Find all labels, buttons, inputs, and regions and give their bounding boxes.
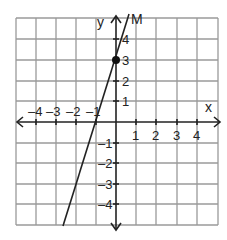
point-y-intercept bbox=[112, 56, 120, 64]
y-tick-label: –1 bbox=[98, 136, 112, 151]
y-tick-label: 4 bbox=[122, 32, 129, 47]
x-tick-label: 4 bbox=[193, 128, 200, 143]
coordinate-plane: y M x –4 –3 –2 –1 1 2 3 4 4 3 2 1 –1 –2 … bbox=[0, 0, 227, 240]
x-tick-label: 2 bbox=[152, 128, 159, 143]
x-tick-label: –1 bbox=[86, 104, 100, 119]
x-tick-label: –2 bbox=[66, 104, 80, 119]
line-label: M bbox=[131, 11, 143, 27]
x-tick-label: 1 bbox=[132, 128, 139, 143]
x-tick-label: 3 bbox=[173, 128, 180, 143]
y-axis bbox=[111, 16, 121, 230]
x-axis-label: x bbox=[205, 99, 212, 115]
y-tick-label: 3 bbox=[122, 53, 129, 68]
y-tick-label: –4 bbox=[98, 197, 112, 212]
y-tick-label: –2 bbox=[98, 156, 112, 171]
y-tick-label: 1 bbox=[122, 94, 129, 109]
y-tick-label: 2 bbox=[122, 74, 129, 89]
y-axis-label: y bbox=[97, 14, 104, 30]
y-tick-label: –3 bbox=[98, 177, 112, 192]
x-tick-label: –3 bbox=[46, 104, 60, 119]
x-tick-label: –4 bbox=[28, 104, 42, 119]
